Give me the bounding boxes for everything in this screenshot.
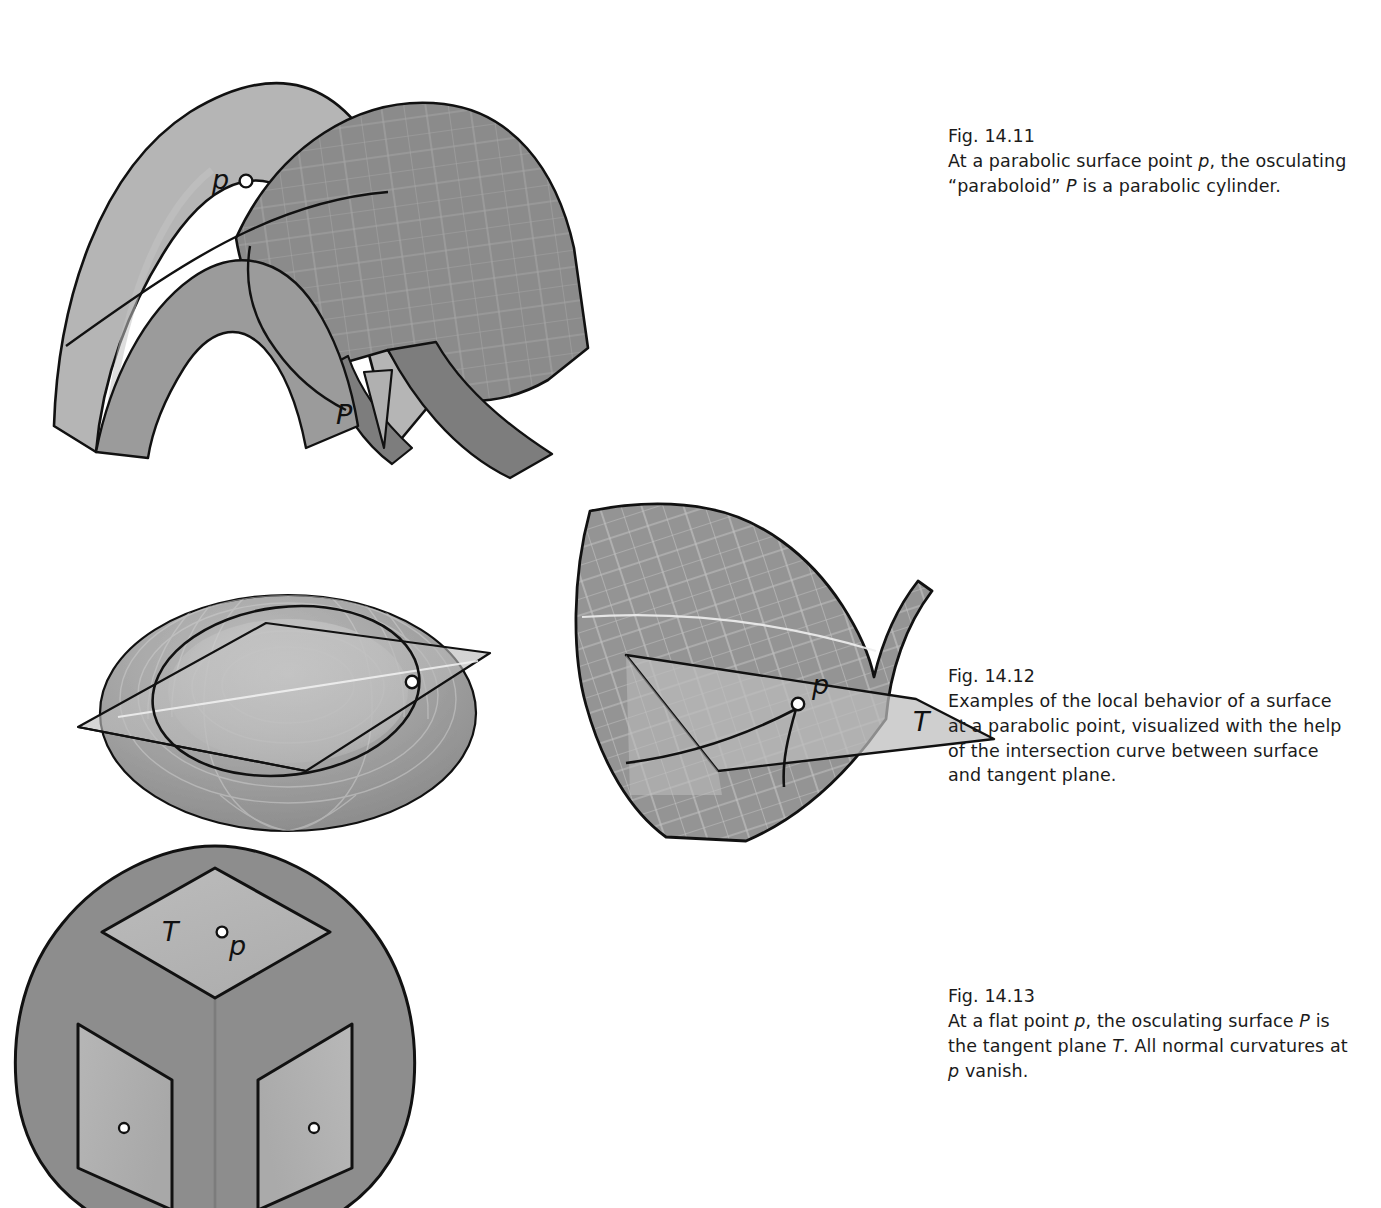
caption-fig-14-12: Fig. 14.12 Examples of the local behavio… [948,664,1348,788]
saddle-with-tangent-plane [576,504,994,841]
saddle-point-p-label: p [812,671,829,698]
figure-14-12: p T [70,495,950,865]
figure-14-13-graphic [0,838,430,1208]
caption-fig-14-13-number: Fig. 14.13 [948,984,1348,1009]
cube-point-p-label: p [229,932,246,959]
point-p-label: p [212,166,229,193]
saddle-point-p-marker [792,698,804,710]
torus-point-marker [406,676,418,688]
caption-fig-14-11-text: At a parabolic surface point p, the oscu… [948,149,1348,199]
caption-fig-14-11: Fig. 14.11 At a parabolic surface point … [948,124,1348,199]
figure-14-11: p P [40,50,640,470]
surface-P-label: P [336,401,352,428]
point-p-marker [240,175,253,188]
caption-fig-14-11-number: Fig. 14.11 [948,124,1348,149]
left-face-flat-point-marker [119,1123,129,1133]
caption-fig-14-12-text: Examples of the local behavior of a surf… [948,689,1348,788]
torus-with-tangent-plane [78,573,490,831]
caption-fig-14-13: Fig. 14.13 At a flat point p, the oscula… [948,984,1348,1083]
saddle-tangent-plane-T-label: T [913,708,930,735]
cube-tangent-plane-T-label: T [162,918,179,945]
caption-fig-14-12-number: Fig. 14.12 [948,664,1348,689]
top-face-flat-point-marker [217,927,228,938]
caption-fig-14-13-text: At a flat point p, the osculating surfac… [948,1009,1348,1084]
figure-14-13: T p [0,838,430,1208]
right-face-flat-point-marker [309,1123,319,1133]
